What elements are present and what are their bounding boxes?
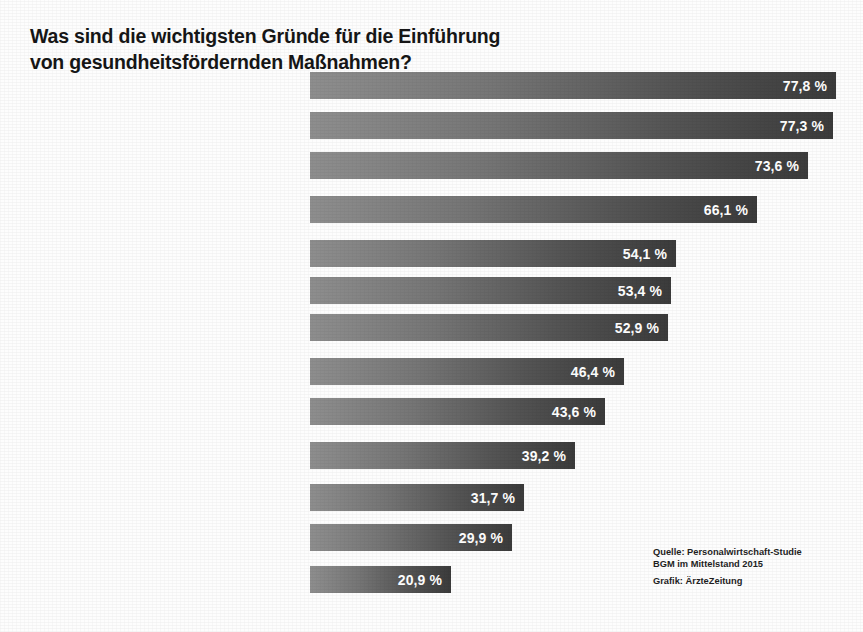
bar-track: 31,7 % (310, 484, 524, 511)
bar-value-label: 77,8 % (783, 78, 836, 94)
bar-track: 39,2 % (310, 442, 575, 469)
bar-track: 77,3 % (310, 112, 833, 139)
bar-fill: 29,9 % (310, 524, 512, 551)
bar-fill: 46,4 % (310, 358, 624, 385)
bar-value-label: 29,9 % (459, 530, 512, 546)
bar-fill: 73,6 % (310, 152, 808, 179)
bar-value-label: 73,6 % (755, 158, 808, 174)
bar-value-label: 53,4 % (618, 283, 671, 299)
bar-fill: 66,1 % (310, 196, 757, 223)
bar-value-label: 52,9 % (615, 320, 668, 336)
bar-fill: 53,4 % (310, 277, 671, 304)
bar-track: 54,1 % (310, 240, 676, 267)
bar-value-label: 46,4 % (571, 364, 624, 380)
bar-track: 77,8 % (310, 72, 836, 99)
bar-fill: 77,3 % (310, 112, 833, 139)
bar-track: 29,9 % (310, 524, 512, 551)
bar-value-label: 66,1 % (704, 202, 757, 218)
bar-fill: 31,7 % (310, 484, 524, 511)
bar-track: 20,9 % (310, 566, 451, 593)
bar-track: 43,6 % (310, 398, 605, 425)
bar-value-label: 31,7 % (471, 490, 524, 506)
bar-value-label: 54,1 % (623, 246, 676, 262)
bar-fill: 39,2 % (310, 442, 575, 469)
bar-track: 53,4 % (310, 277, 671, 304)
bar-fill: 43,6 % (310, 398, 605, 425)
bar-value-label: 77,3 % (780, 118, 833, 134)
bar-track: 66,1 % (310, 196, 757, 223)
bar-track: 52,9 % (310, 314, 668, 341)
source-attribution: Quelle: Personalwirtschaft-Studie BGM im… (653, 546, 853, 587)
bar-fill: 52,9 % (310, 314, 668, 341)
bar-chart-plot-area: Steigerung derArbeitszufriedenheit77,8 %… (0, 0, 863, 632)
bar-value-label: 20,9 % (398, 572, 451, 588)
bar-value-label: 39,2 % (522, 448, 575, 464)
bar-fill: 54,1 % (310, 240, 676, 267)
bar-track: 73,6 % (310, 152, 808, 179)
source-line-1: Quelle: Personalwirtschaft-Studie (653, 546, 853, 558)
source-line-2: BGM im Mittelstand 2015 (653, 558, 853, 570)
infographic-root: Was sind die wichtigsten Gründe für die … (0, 0, 863, 632)
bar-fill: 20,9 % (310, 566, 451, 593)
bar-fill: 77,8 % (310, 72, 836, 99)
bar-value-label: 43,6 % (552, 404, 605, 420)
source-line-3: Grafik: ÄrzteZeitung (653, 575, 853, 587)
bar-track: 46,4 % (310, 358, 624, 385)
